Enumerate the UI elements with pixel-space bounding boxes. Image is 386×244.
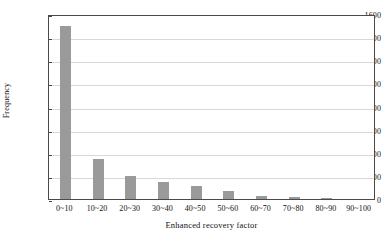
- y-tick-mark: [49, 62, 52, 63]
- x-axis-title: Enhanced recovery factor: [48, 220, 375, 230]
- y-tick-mark: [49, 132, 52, 133]
- gridline: [49, 62, 374, 63]
- y-tick-mark: [49, 85, 52, 86]
- x-tick-label: 70~80: [283, 204, 304, 213]
- bar: [158, 182, 169, 199]
- y-tick-mark: [49, 39, 52, 40]
- x-tick-label: 60~70: [250, 204, 271, 213]
- x-tick-label: 0~10: [56, 204, 73, 213]
- gridline: [49, 109, 374, 110]
- y-tick-mark: [49, 178, 52, 179]
- gridline: [49, 155, 374, 156]
- plot-area: [48, 15, 375, 200]
- bar: [223, 191, 234, 199]
- y-axis-title-label: Frequency: [3, 82, 12, 118]
- x-tick-label: 20~30: [119, 204, 140, 213]
- y-tick-mark: [49, 201, 52, 202]
- x-tick-label: 90~100: [346, 204, 371, 213]
- bar: [289, 197, 300, 199]
- x-tick-label: 30~40: [152, 204, 173, 213]
- y-tick-mark: [49, 109, 52, 110]
- y-axis-title: Frequency: [0, 0, 14, 200]
- gridline: [49, 39, 374, 40]
- x-tick-label: 80~90: [316, 204, 337, 213]
- y-tick-mark: [49, 16, 52, 17]
- histogram-chart: Frequency 02004006008001000120014001600 …: [0, 0, 386, 244]
- x-tick-label: 50~60: [217, 204, 238, 213]
- bar: [125, 176, 136, 199]
- x-tick-label: 10~20: [87, 204, 108, 213]
- gridline: [49, 132, 374, 133]
- bar: [191, 186, 202, 199]
- x-tick-label: 40~50: [185, 204, 206, 213]
- y-tick-mark: [49, 155, 52, 156]
- bar: [93, 159, 104, 199]
- bar: [321, 198, 332, 199]
- bar: [256, 196, 267, 199]
- bar: [60, 26, 71, 199]
- gridline: [49, 85, 374, 86]
